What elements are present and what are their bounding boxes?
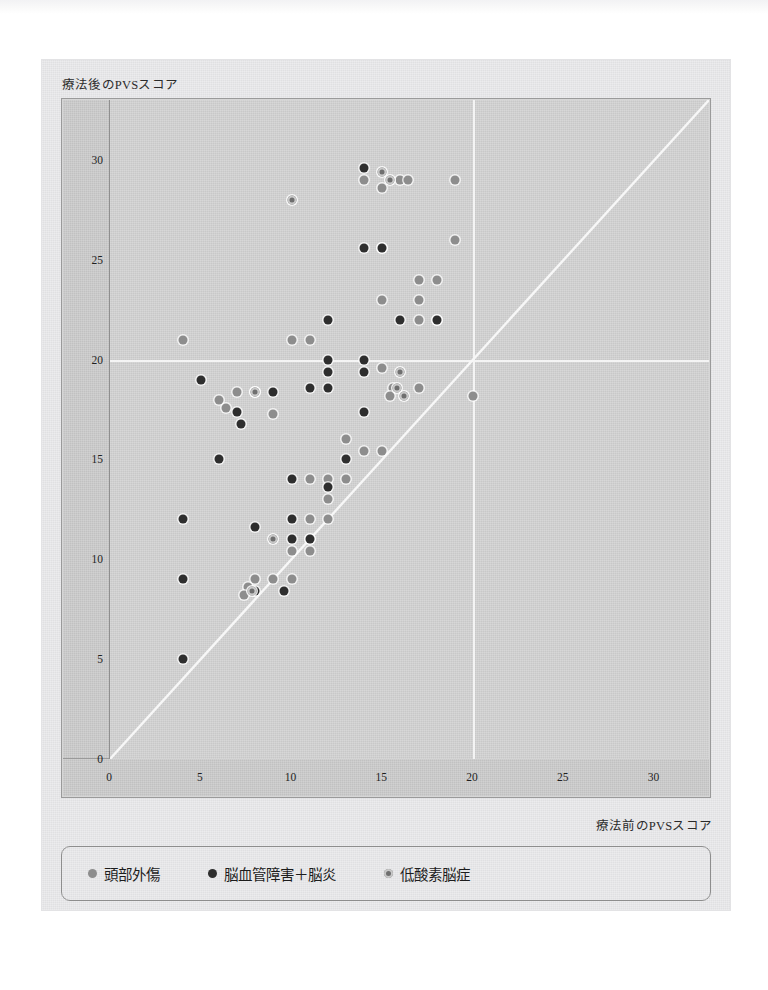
data-point	[280, 587, 289, 596]
plot-area	[109, 100, 709, 759]
data-point	[269, 387, 278, 396]
data-point	[323, 383, 332, 392]
y-tick-label: 15	[92, 453, 104, 465]
legend-items: 頭部外傷脳血管障害＋脳炎低酸素脳症	[88, 847, 470, 900]
data-point	[269, 409, 278, 418]
data-point	[341, 455, 350, 464]
legend-marker-icon	[384, 869, 393, 878]
data-point	[396, 367, 405, 376]
data-point	[305, 547, 314, 556]
data-point	[360, 243, 369, 252]
data-point	[323, 367, 332, 376]
data-point	[233, 387, 242, 396]
figure-panel: 療法後のPVSスコア 051015202530 051015202530 療法前…	[42, 60, 730, 910]
data-point	[287, 195, 296, 204]
data-point	[378, 167, 387, 176]
data-point	[178, 335, 187, 344]
data-point	[414, 315, 423, 324]
data-point	[251, 575, 260, 584]
data-point	[341, 435, 350, 444]
data-point	[360, 163, 369, 172]
data-point	[360, 355, 369, 364]
data-point	[323, 495, 332, 504]
legend-marker-icon	[88, 869, 97, 878]
data-point	[287, 547, 296, 556]
x-tick-label: 25	[557, 771, 569, 783]
y-tick-label: 20	[92, 354, 104, 366]
data-point	[341, 475, 350, 484]
identity-reference-line	[110, 100, 709, 759]
data-point	[214, 395, 223, 404]
data-point	[251, 387, 260, 396]
data-point	[432, 315, 441, 324]
scan-artifact-top-strip	[0, 0, 768, 14]
data-point	[233, 407, 242, 416]
data-point	[178, 515, 187, 524]
data-point	[396, 315, 405, 324]
data-point	[400, 391, 409, 400]
data-point	[378, 447, 387, 456]
y-tick-label: 30	[92, 154, 104, 166]
y-tick-label: 5	[97, 653, 103, 665]
legend-item-label: 頭部外傷	[104, 863, 160, 884]
legend-item-label: 低酸素脳症	[400, 863, 470, 884]
data-point	[450, 175, 459, 184]
data-point	[385, 175, 394, 184]
data-point	[305, 475, 314, 484]
data-point	[403, 175, 412, 184]
data-point	[178, 655, 187, 664]
data-point	[247, 587, 256, 596]
data-point	[196, 375, 205, 384]
legend-item-head-trauma[interactable]: 頭部外傷	[88, 863, 160, 884]
data-point	[178, 575, 187, 584]
data-point	[305, 515, 314, 524]
data-point	[378, 295, 387, 304]
data-point	[378, 243, 387, 252]
legend-item-cvd-enceph[interactable]: 脳血管障害＋脳炎	[208, 863, 336, 884]
data-point	[323, 483, 332, 492]
y-tick-label: 0	[97, 753, 103, 765]
y-tick-label: 25	[92, 254, 104, 266]
data-point	[432, 275, 441, 284]
data-point	[378, 183, 387, 192]
x-axis-title: 療法前のPVSスコア	[596, 815, 712, 834]
data-point	[214, 455, 223, 464]
data-point	[305, 383, 314, 392]
legend-marker-icon	[208, 869, 217, 878]
x-tick-label: 5	[197, 771, 203, 783]
legend-item-hypoxic[interactable]: 低酸素脳症	[384, 863, 470, 884]
data-point	[269, 575, 278, 584]
data-point	[287, 575, 296, 584]
y-tick-label: 10	[92, 553, 104, 565]
x-tick-label: 0	[106, 771, 112, 783]
data-point	[450, 235, 459, 244]
data-point	[305, 535, 314, 544]
data-point	[323, 355, 332, 364]
data-point	[236, 419, 245, 428]
x-tick-label: 20	[466, 771, 478, 783]
data-point	[360, 407, 369, 416]
chart-frame: 051015202530 051015202530	[61, 98, 711, 798]
data-point	[305, 335, 314, 344]
data-point	[360, 175, 369, 184]
data-point	[378, 363, 387, 372]
data-point	[414, 295, 423, 304]
x-tick-label: 15	[376, 771, 388, 783]
data-point	[287, 515, 296, 524]
data-point	[222, 403, 231, 412]
x-tick-label: 30	[648, 771, 660, 783]
data-point	[414, 383, 423, 392]
data-point	[360, 367, 369, 376]
data-point	[323, 515, 332, 524]
data-point	[287, 535, 296, 544]
legend: 頭部外傷脳血管障害＋脳炎低酸素脳症	[61, 846, 711, 901]
legend-item-label: 脳血管障害＋脳炎	[224, 863, 336, 884]
data-point	[392, 383, 401, 392]
data-point	[385, 391, 394, 400]
y-axis-title: 療法後のPVSスコア	[62, 74, 178, 93]
data-point	[323, 315, 332, 324]
x-tick-label: 10	[285, 771, 297, 783]
data-point	[414, 275, 423, 284]
data-point	[469, 391, 478, 400]
data-point	[287, 475, 296, 484]
